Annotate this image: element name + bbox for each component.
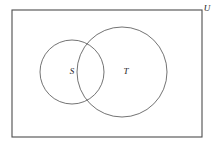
venn-diagram-canvas: S T U: [0, 0, 220, 145]
set-circle-t: [77, 27, 167, 117]
set-label-s: S: [70, 66, 75, 76]
universal-set-label-u: U: [204, 3, 211, 13]
universal-set-rectangle: [12, 10, 202, 137]
set-label-t: T: [123, 66, 129, 76]
venn-diagram-figure: S T U: [0, 0, 220, 145]
